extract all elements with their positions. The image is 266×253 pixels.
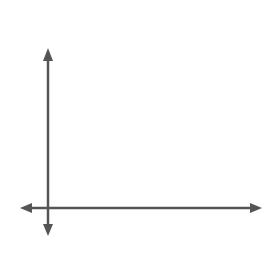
x-axis-right-arrow-icon bbox=[250, 203, 262, 213]
x-axis-left-arrow-icon bbox=[20, 203, 32, 213]
coordinate-grid bbox=[0, 0, 266, 253]
x-axis bbox=[20, 203, 262, 213]
y-axis-down-arrow-icon bbox=[43, 224, 53, 236]
y-axis-up-arrow-icon bbox=[43, 48, 53, 61]
